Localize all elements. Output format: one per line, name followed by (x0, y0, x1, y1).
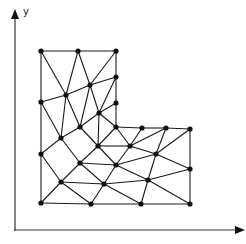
mesh-node (187, 201, 192, 206)
mesh-edge (80, 163, 104, 184)
mesh-node (87, 82, 92, 87)
mesh-edge (41, 182, 61, 203)
mesh-node (58, 179, 63, 184)
mesh-node (88, 201, 93, 206)
mesh-node (113, 74, 118, 79)
mesh-node (63, 92, 68, 97)
mesh-node (95, 143, 100, 148)
mesh-edge (41, 138, 61, 154)
mesh-edge (104, 184, 141, 204)
mesh-edge (141, 180, 148, 204)
mesh-edge (80, 146, 98, 163)
mesh-node (113, 100, 118, 105)
mesh-edge (41, 203, 91, 204)
mesh-node (138, 201, 143, 206)
mesh-node (75, 48, 80, 53)
mesh-edge (148, 169, 190, 180)
mesh-node (38, 48, 43, 53)
axes: y (11, 6, 245, 234)
mesh-edge (156, 154, 190, 169)
mesh-edge (41, 51, 66, 95)
mesh-node (77, 124, 82, 129)
mesh-edge (61, 127, 80, 138)
mesh-edge (41, 95, 66, 102)
mesh-edge (130, 146, 156, 154)
mesh-edge (61, 95, 66, 138)
mesh-edge (66, 85, 90, 95)
mesh-node (38, 151, 43, 156)
mesh-edge (98, 113, 99, 146)
mesh-node (101, 181, 106, 186)
mesh-diagram: y (0, 0, 246, 244)
mesh-node (153, 151, 158, 156)
mesh-node (58, 135, 63, 140)
mesh-node (113, 162, 118, 167)
mesh-node (187, 166, 192, 171)
mesh-edge (104, 165, 116, 184)
mesh-node (96, 110, 101, 115)
mesh-edge (61, 182, 104, 184)
y-axis-label: y (23, 6, 29, 17)
mesh-edge (90, 85, 99, 113)
mesh-edge (99, 113, 116, 127)
mesh-edge (61, 163, 80, 182)
mesh-node (139, 125, 144, 130)
mesh-edge (116, 165, 148, 180)
mesh-edge (90, 51, 116, 85)
mesh-node (38, 200, 43, 205)
mesh-edge (78, 51, 90, 85)
mesh-edge (61, 138, 80, 163)
mesh-edge (116, 127, 142, 128)
mesh-edge (41, 154, 61, 182)
mesh-edge (98, 146, 116, 165)
y-axis-arrow-icon (11, 9, 19, 19)
mesh-node (127, 143, 132, 148)
mesh-edge (41, 102, 61, 138)
mesh-node (187, 126, 192, 131)
mesh-edge (98, 127, 116, 146)
mesh-edge (66, 51, 78, 95)
mesh-edge (61, 182, 91, 204)
mesh-edge (80, 127, 98, 146)
mesh-node (163, 125, 168, 130)
mesh-edge (104, 180, 148, 184)
mesh-edge (66, 95, 80, 127)
mesh-node (113, 124, 118, 129)
x-axis-arrow-icon (235, 226, 245, 234)
mesh-edge (90, 77, 116, 85)
mesh-edge (116, 154, 156, 165)
mesh-node (38, 99, 43, 104)
mesh-edge (148, 154, 156, 180)
mesh-edge (148, 180, 190, 204)
mesh-edge (91, 184, 104, 204)
mesh-edge (116, 127, 130, 146)
mesh-node (145, 177, 150, 182)
mesh-edge (80, 163, 116, 165)
mesh-node (113, 48, 118, 53)
mesh-node (77, 160, 82, 165)
mesh-edge (166, 128, 190, 129)
